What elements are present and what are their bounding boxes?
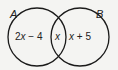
set-a-label: A: [9, 8, 17, 20]
intersection-label: x: [54, 31, 61, 42]
b-only-region-label: x + 5: [68, 31, 91, 42]
set-b-label: B: [96, 8, 103, 20]
venn-diagram: A B 2x − 4 x x + 5: [0, 0, 118, 70]
a-only-region-label: 2x − 4: [15, 31, 43, 42]
